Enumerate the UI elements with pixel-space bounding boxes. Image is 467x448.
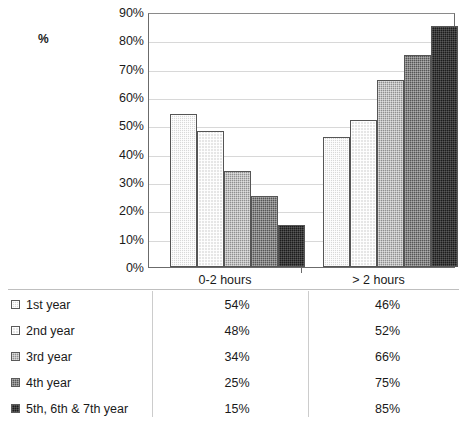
table-cell-2nd-year-0-2-hours: 48% (160, 324, 314, 338)
bar-0-2-hours-5th-6th-7th-year (278, 225, 305, 268)
bar-0-2-hours-3rd-year (224, 171, 251, 267)
y-tick-label: 70% (102, 64, 144, 76)
bar-gt-2-hours-4th-year (404, 55, 431, 268)
legend-label-3rd-year: 3rd year (26, 350, 72, 364)
legend-swatch-5th-6th-7th-year (11, 404, 20, 413)
category-label-first: 0-2 hours (148, 273, 302, 287)
table-row: 1st year 54% 46% (8, 293, 459, 319)
table-cell-1st-year-0-2-hours: 54% (160, 298, 314, 312)
table-cell-4th-year-gt-2-hours: 75% (316, 376, 459, 390)
bar-gt-2-hours-1st-year (323, 137, 350, 267)
table-cell-4th-year-0-2-hours: 25% (160, 376, 314, 390)
legend-swatch-2nd-year (11, 326, 20, 335)
y-tick-label: 60% (102, 92, 144, 104)
bar-gt-2-hours-2nd-year (350, 120, 377, 267)
table-row: 5th, 6th & 7th year 15% 85% (8, 397, 459, 423)
table-cell-3rd-year-gt-2-hours: 66% (316, 350, 459, 364)
y-tick-label: 0% (102, 262, 144, 274)
legend-swatch-4th-year (11, 378, 20, 387)
legend-swatch-3rd-year (11, 352, 20, 361)
y-tick-label: 20% (102, 205, 144, 217)
plot-area (148, 13, 455, 268)
y-tick-label: 50% (102, 120, 144, 132)
bar-gt-2-hours-5th-6th-7th-year (431, 26, 458, 267)
legend-label-5th-6th-7th-year: 5th, 6th & 7th year (26, 402, 128, 416)
bar-0-2-hours-2nd-year (197, 131, 224, 267)
legend-label-2nd-year: 2nd year (26, 324, 75, 338)
y-tick-label: 10% (102, 234, 144, 246)
legend-label-4th-year: 4th year (26, 376, 71, 390)
y-tick-label: 80% (102, 35, 144, 47)
table-top-rule (8, 289, 459, 290)
table-row: 3rd year 34% 66% (8, 345, 459, 371)
table-cell-3rd-year-0-2-hours: 34% (160, 350, 314, 364)
bar-gt-2-hours-3rd-year (377, 80, 404, 267)
bar-chart-figure: % 90% 80% 70% 60% 50% 40% 30% 20% 10% 0% (0, 0, 467, 448)
y-tick-label: 40% (102, 149, 144, 161)
y-axis: 90% 80% 70% 60% 50% 40% 30% 20% 10% 0% (100, 13, 144, 268)
table-row: 2nd year 48% 52% (8, 319, 459, 345)
table-cell-1st-year-gt-2-hours: 46% (316, 298, 459, 312)
data-table: 1st year 54% 46% 2nd year 48% 52% 3rd ye… (8, 289, 459, 435)
bar-0-2-hours-1st-year (170, 114, 197, 267)
y-axis-title: % (38, 32, 49, 46)
bar-0-2-hours-4th-year (251, 196, 278, 267)
y-tick-label: 30% (102, 177, 144, 189)
category-label-second: > 2 hours (302, 273, 455, 287)
legend-swatch-1st-year (11, 300, 20, 309)
y-tick-label: 90% (102, 7, 144, 19)
table-row: 4th year 25% 75% (8, 371, 459, 397)
table-cell-5th-6th-7th-year-gt-2-hours: 85% (316, 402, 459, 416)
legend-label-1st-year: 1st year (26, 298, 70, 312)
table-cell-2nd-year-gt-2-hours: 52% (316, 324, 459, 338)
gridline-80 (149, 42, 454, 43)
table-cell-5th-6th-7th-year-0-2-hours: 15% (160, 402, 314, 416)
